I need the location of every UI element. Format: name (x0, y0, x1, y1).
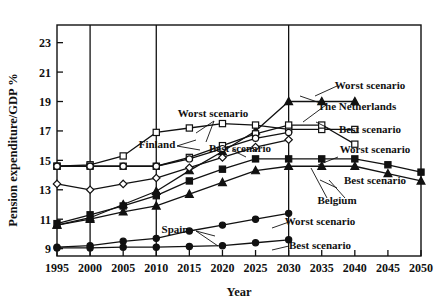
series-marker-open-circle (252, 135, 258, 141)
series-marker-filled-square (385, 162, 391, 168)
series-marker-filled-circle (54, 245, 60, 251)
ann-netherlands: The Netherlands (318, 100, 397, 112)
x-tick-label-2030: 2030 (277, 261, 301, 275)
ann-best-nl: Best scenario (339, 123, 402, 135)
ann-spain: Spain (162, 223, 189, 235)
series-marker-open-square (120, 153, 126, 159)
series-marker-filled-circle (252, 240, 258, 246)
series-marker-filled-square (186, 178, 192, 184)
series-marker-filled-circle (120, 244, 126, 250)
ann-worst-nl: Worst scenario (335, 79, 406, 91)
x-tick-label-2035: 2035 (310, 261, 334, 275)
x-tick-label-2010: 2010 (144, 261, 168, 275)
ann-worst-belgium: Worst scenario (340, 143, 411, 155)
x-tick-label-2005: 2005 (111, 261, 135, 275)
series-marker-filled-circle (87, 245, 93, 251)
series-marker-open-circle (153, 163, 159, 169)
series-marker-open-square (286, 122, 292, 128)
series-marker-open-square (252, 122, 258, 128)
y-tick-label-19: 19 (39, 95, 51, 109)
x-tick-label-2045: 2045 (376, 261, 400, 275)
x-tick-label-2050: 2050 (409, 261, 433, 275)
series-marker-filled-circle (219, 222, 225, 228)
y-tick-label-15: 15 (39, 154, 51, 168)
ann-best-finland: Best scenario (209, 142, 272, 154)
y-tick-label-9: 9 (45, 242, 51, 256)
series-marker-open-circle (54, 163, 60, 169)
series-marker-filled-square (219, 166, 225, 172)
y-tick-label-17: 17 (39, 124, 51, 138)
series-marker-filled-circle (186, 243, 192, 249)
y-tick-label-21: 21 (39, 66, 51, 80)
y-tick-label-23: 23 (39, 36, 51, 50)
x-tick-label-2020: 2020 (210, 261, 234, 275)
series-marker-filled-circle (219, 243, 225, 249)
series-marker-filled-square (252, 156, 258, 162)
series-marker-open-circle (87, 163, 93, 169)
ann-worst-spain: Worst scenario (285, 215, 356, 227)
x-tick-label-1995: 1995 (45, 261, 69, 275)
series-marker-filled-circle (252, 216, 258, 222)
series-marker-open-circle (120, 163, 126, 169)
x-tick-label-2015: 2015 (177, 261, 201, 275)
series-marker-filled-circle (120, 238, 126, 244)
pension-expenditure-line-chart: 911131517192123 199520002005201020152020… (0, 0, 445, 306)
ann-belgium: Belgium (317, 194, 356, 206)
ann-worst-finland: Worst scenario (178, 107, 249, 119)
x-tick-label-2000: 2000 (78, 261, 102, 275)
x-axis-title: Year (227, 285, 252, 299)
series-marker-open-square (186, 125, 192, 131)
series-marker-open-circle (286, 129, 292, 135)
series-marker-filled-square (418, 169, 424, 175)
series-marker-open-circle (186, 156, 192, 162)
series-marker-open-square (153, 129, 159, 135)
x-tick-label-2040: 2040 (343, 261, 367, 275)
series-marker-filled-circle (153, 244, 159, 250)
series-marker-filled-circle (153, 235, 159, 241)
series-marker-filled-square (153, 193, 159, 199)
ann-best-belgium: Best scenario (344, 174, 407, 186)
series-marker-open-square (219, 120, 225, 126)
y-axis-title: Pension expenditure/GDP % (6, 73, 20, 226)
ann-finland: Finland (139, 138, 176, 150)
y-tick-label-13: 13 (39, 183, 51, 197)
ann-best-spain: Best scenario (289, 239, 352, 251)
chart-container: 911131517192123 199520002005201020152020… (0, 0, 445, 306)
y-tick-label-11: 11 (40, 213, 51, 227)
x-tick-label-2025: 2025 (244, 261, 268, 275)
